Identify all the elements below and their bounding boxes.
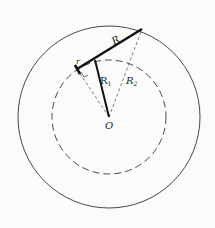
R1-thick-line	[95, 60, 109, 117]
label-O: O	[105, 120, 113, 131]
right-angle-mark	[81, 72, 88, 77]
R-thick-line	[77, 29, 142, 69]
label-r: r	[76, 57, 81, 66]
label-R2: R2	[125, 75, 138, 87]
label-R1-sub: 1	[108, 80, 112, 87]
label-R: R	[109, 33, 122, 47]
label-R2-sub: 2	[133, 80, 138, 87]
geometry-diagram: R r R1 R2 O	[0, 0, 215, 228]
label-R1: R1	[100, 75, 111, 87]
